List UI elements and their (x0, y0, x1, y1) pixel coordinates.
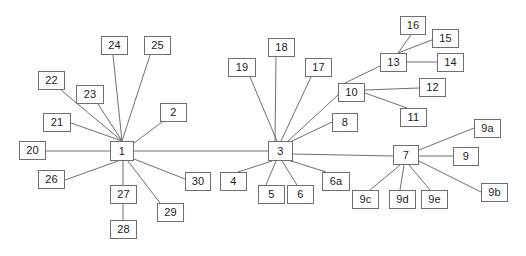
node-label: 6a (330, 176, 343, 187)
edge-30-1 (134, 159, 185, 179)
node-14[interactable]: 14 (437, 53, 464, 72)
node-label: 1 (119, 146, 125, 157)
edge-19-3 (250, 77, 277, 141)
edge-6-3 (282, 161, 297, 185)
node-label: 14 (444, 57, 457, 68)
node-11[interactable]: 11 (400, 108, 427, 127)
node-5[interactable]: 5 (258, 185, 285, 204)
node-label: 19 (236, 62, 249, 73)
node-3[interactable]: 3 (268, 141, 293, 161)
node-label: 4 (230, 176, 236, 187)
node-label: 6 (297, 189, 303, 200)
node-13[interactable]: 13 (380, 53, 407, 72)
node-29[interactable]: 29 (157, 203, 184, 222)
edge-3-7 (293, 154, 393, 156)
node-label: 15 (439, 33, 452, 44)
node-28[interactable]: 28 (110, 220, 137, 239)
node-label: 9b (488, 187, 501, 198)
node-25[interactable]: 25 (144, 36, 171, 55)
node-label: 9e (428, 194, 441, 205)
edge-7-9c (370, 165, 400, 190)
node-26[interactable]: 26 (38, 170, 65, 189)
edge-5-3 (266, 161, 276, 185)
edge-10-3 (287, 95, 338, 142)
edge-10-13 (345, 66, 380, 83)
node-4[interactable]: 4 (220, 172, 247, 191)
node-15[interactable]: 15 (432, 29, 459, 48)
node-9d[interactable]: 9d (389, 190, 416, 209)
edge-10-12 (365, 88, 419, 90)
edge-7-9e (409, 165, 430, 190)
node-12[interactable]: 12 (419, 78, 446, 97)
node-7[interactable]: 7 (393, 145, 419, 165)
node-23[interactable]: 23 (76, 85, 104, 104)
node-21[interactable]: 21 (43, 113, 71, 132)
edge-4-3 (238, 161, 272, 172)
node-9c[interactable]: 9c (352, 190, 379, 209)
node-17[interactable]: 17 (305, 58, 332, 77)
node-label: 11 (408, 112, 420, 123)
edge-2-1 (134, 122, 162, 143)
node-label: 23 (84, 89, 97, 100)
diagram-canvas: 1234566a7899a9b9c9d9e1011121314151617181… (0, 0, 526, 256)
node-9[interactable]: 9 (453, 147, 479, 166)
node-label: 9d (396, 194, 409, 205)
node-19[interactable]: 19 (228, 58, 256, 77)
node-label: 25 (151, 40, 164, 51)
node-label: 12 (426, 82, 439, 93)
edge-6a-3 (288, 160, 326, 172)
node-22[interactable]: 22 (38, 71, 65, 90)
node-label: 9a (481, 123, 494, 134)
node-label: 20 (26, 145, 39, 156)
node-label: 16 (407, 20, 420, 31)
node-label: 17 (312, 62, 325, 73)
node-8[interactable]: 8 (332, 113, 358, 132)
node-30[interactable]: 30 (185, 172, 211, 191)
node-label: 13 (387, 57, 400, 68)
edge-18-3 (275, 57, 276, 141)
node-label: 22 (45, 75, 58, 86)
edge-26-1 (65, 161, 118, 180)
node-16[interactable]: 16 (400, 16, 426, 35)
node-20[interactable]: 20 (19, 141, 46, 160)
node-label: 27 (117, 189, 130, 200)
node-9b[interactable]: 9b (481, 183, 508, 202)
edge-25-1 (122, 55, 150, 141)
node-18[interactable]: 18 (268, 38, 295, 57)
node-label: 8 (342, 117, 348, 128)
edge-10-11 (365, 93, 407, 108)
node-9e[interactable]: 9e (421, 190, 448, 209)
node-label: 2 (170, 107, 176, 118)
node-label: 30 (192, 176, 205, 187)
edge-17-3 (281, 77, 311, 141)
edge-24-1 (113, 55, 122, 141)
node-label: 9 (463, 151, 469, 162)
node-label: 9c (359, 194, 371, 205)
node-24[interactable]: 24 (101, 36, 128, 55)
node-label: 28 (117, 224, 130, 235)
node-10[interactable]: 10 (338, 83, 365, 102)
node-label: 7 (403, 150, 409, 161)
node-label: 5 (268, 189, 274, 200)
edge-7-9d (400, 165, 404, 190)
node-label: 10 (345, 87, 358, 98)
node-label: 3 (277, 146, 283, 157)
node-label: 24 (108, 40, 121, 51)
node-1[interactable]: 1 (110, 141, 134, 161)
node-27[interactable]: 27 (110, 185, 137, 204)
node-label: 26 (45, 174, 58, 185)
node-label: 29 (164, 207, 177, 218)
edge-21-1 (71, 123, 122, 141)
node-9a[interactable]: 9a (474, 119, 501, 138)
node-2[interactable]: 2 (160, 103, 187, 122)
node-label: 18 (275, 42, 288, 53)
node-6[interactable]: 6 (287, 185, 314, 204)
edge-8-3 (288, 122, 332, 143)
node-6a[interactable]: 6a (322, 172, 350, 191)
node-label: 21 (51, 117, 64, 128)
